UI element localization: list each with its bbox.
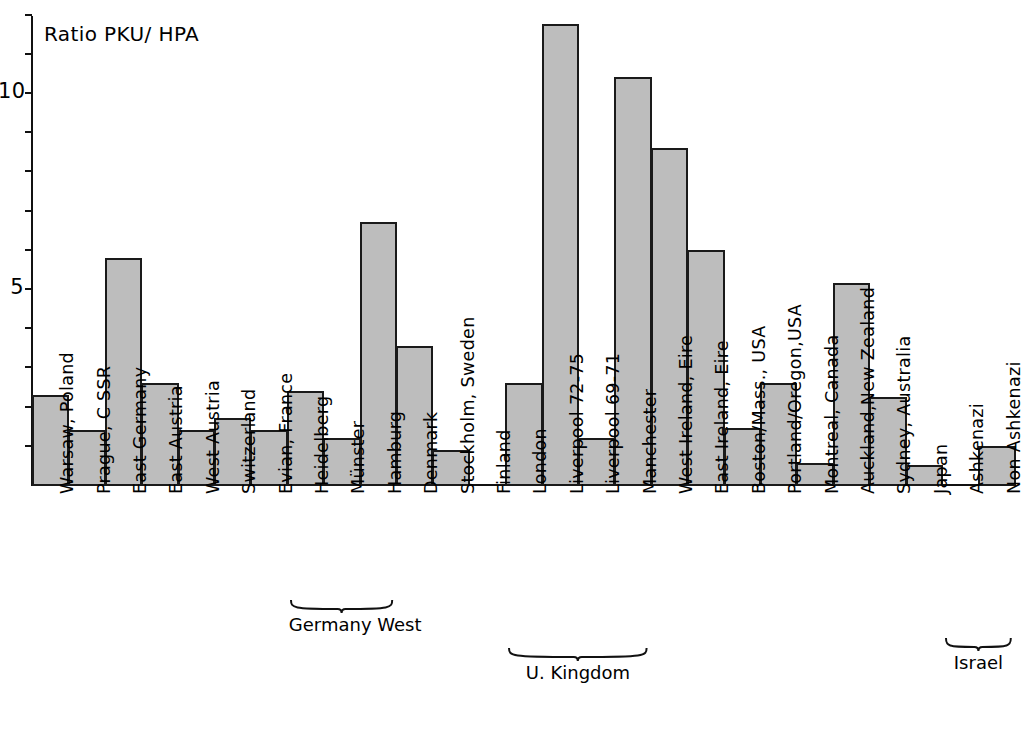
y-tick-label-5: 5 — [0, 275, 24, 299]
category-label: Prague, C SSR — [94, 366, 114, 494]
category-label: Münster — [348, 421, 368, 494]
category-label: Stockholm, Sweden — [458, 316, 478, 494]
y-tick-9 — [25, 131, 32, 133]
category-label: Switzerland — [239, 389, 259, 494]
category-label: Liverpool 69-71 — [603, 353, 623, 494]
y-tick-1 — [25, 445, 32, 447]
category-label: Liverpool 72-75 — [567, 353, 587, 494]
group-brace — [289, 600, 394, 614]
category-label: Ashkenazi — [967, 403, 987, 494]
category-label: Portland/Oregon,USA — [785, 304, 805, 494]
category-label: Hamburg — [385, 411, 405, 494]
category-label: Denmark — [421, 411, 441, 494]
category-label: East Ireland, Eire — [712, 340, 732, 494]
category-label: Non Ashkenazi — [1004, 361, 1024, 494]
y-tick-2 — [25, 406, 32, 408]
category-label: Montreal, Canada — [822, 335, 842, 494]
group-brace-label: Israel — [944, 652, 1013, 673]
y-tick-11 — [25, 53, 32, 55]
y-tick-5 — [25, 288, 32, 290]
category-label: Finland — [494, 429, 514, 494]
category-label: London — [530, 428, 550, 494]
y-tick-12 — [25, 14, 32, 16]
y-tick-4 — [25, 327, 32, 329]
category-label: Manchester — [640, 389, 660, 494]
y-tick-label-10: 10 — [0, 79, 24, 103]
category-label: Heidelberg — [312, 396, 332, 494]
group-brace — [944, 638, 1013, 652]
category-label: Japan — [931, 444, 951, 494]
y-tick-6 — [25, 249, 32, 251]
chart-root: Ratio PKU/ HPA 510 Warsaw, PolandPrague,… — [0, 0, 1030, 742]
y-tick-3 — [25, 366, 32, 368]
y-tick-7 — [25, 210, 32, 212]
category-label: Warsaw, Poland — [57, 352, 77, 494]
category-label: West Ireland, Eire — [676, 335, 696, 494]
category-label: East Germany — [130, 367, 150, 494]
category-label: Sydney, Australia — [894, 336, 914, 494]
axis-title: Ratio PKU/ HPA — [44, 22, 199, 46]
category-label: West Austria — [203, 380, 223, 494]
category-label: Boston/Mass., USA — [749, 326, 769, 494]
y-tick-10 — [25, 92, 32, 94]
category-label: Evian, France — [276, 373, 296, 494]
group-brace-label: U. Kingdom — [507, 662, 649, 683]
category-label: Auckland,New Zealand — [858, 287, 878, 494]
y-tick-8 — [25, 170, 32, 172]
category-label: East Austria — [166, 385, 186, 494]
group-brace-label: Germany West — [289, 614, 394, 635]
group-brace — [507, 648, 649, 662]
